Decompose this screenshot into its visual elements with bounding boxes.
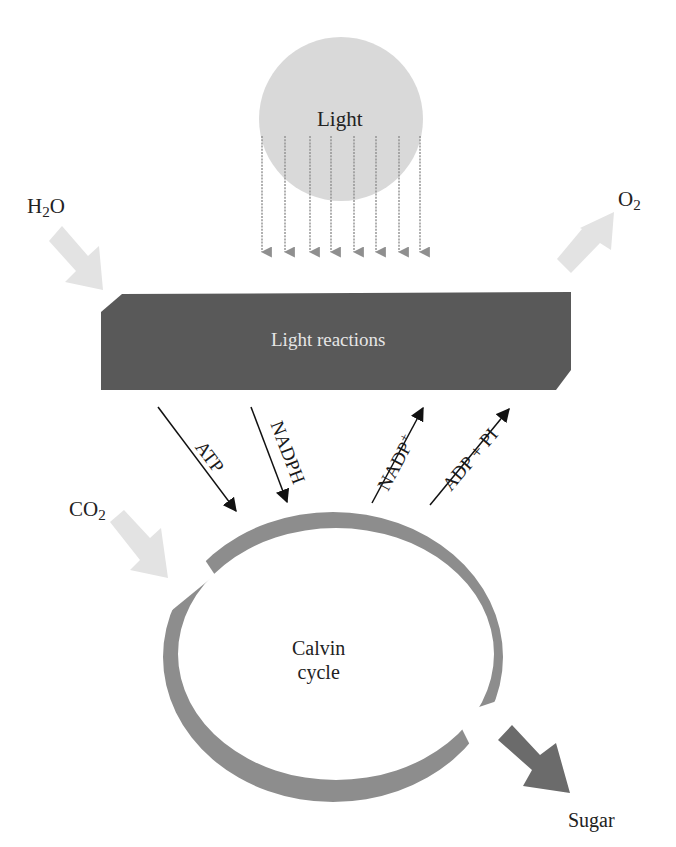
water-label-main: H xyxy=(27,194,42,218)
light-reactions-label: Light reactions xyxy=(271,329,386,351)
sugar-label: Sugar xyxy=(568,809,615,832)
carbon-dioxide-label-main: CO xyxy=(69,497,98,521)
oxygen-label-subscript: 2 xyxy=(633,197,641,213)
water-label-subscript: 2 xyxy=(42,204,50,220)
oxygen-output-arrow xyxy=(557,212,614,273)
calvin-cycle-label: Calvin cycle xyxy=(292,636,345,684)
water-input-arrow xyxy=(49,226,103,290)
oxygen-label: O2 xyxy=(618,187,641,212)
water-label: H2O xyxy=(27,194,65,219)
calvin-cycle-label-line2: cycle xyxy=(292,660,345,684)
water-label-tail: O xyxy=(50,194,65,218)
light-label: Light xyxy=(317,107,363,132)
sugar-output-arrow xyxy=(498,725,570,793)
oxygen-label-main: O xyxy=(618,187,633,211)
calvin-cycle-label-line1: Calvin xyxy=(292,636,345,660)
carbon-dioxide-label: CO2 xyxy=(69,497,106,522)
carbon-dioxide-label-subscript: 2 xyxy=(98,507,106,523)
carbon-dioxide-input-arrow xyxy=(110,510,168,578)
